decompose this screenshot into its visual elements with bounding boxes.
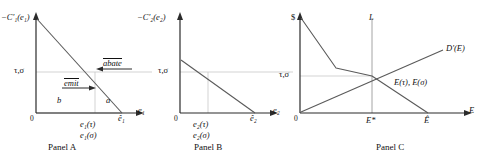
panel-c-y-axis-label: $ bbox=[291, 13, 295, 22]
panel-a: −C'₁(e₁) τ,σ 0 b a emit abate e₁(τ) e₁(σ… bbox=[0, 0, 155, 156]
panel-c-aggregate-label: E(τ), E(σ) bbox=[394, 78, 427, 87]
panel-c-caption: Panel C bbox=[376, 142, 404, 152]
panel-c-plot bbox=[288, 0, 498, 156]
panel-b-tick-label-sigma: e₂(σ) bbox=[193, 131, 210, 140]
panel-a-tick-label-tau: e₁(τ) bbox=[80, 120, 95, 129]
panel-c-x-max-label: Ê bbox=[424, 116, 429, 125]
panel-b-tick-label-tau: e₂(τ) bbox=[193, 120, 208, 129]
panel-c-demand-label: D'(E) bbox=[446, 44, 465, 53]
aggregate-mac-curve-c bbox=[301, 18, 428, 113]
panel-a-x-max-label: ê₁ bbox=[118, 114, 125, 123]
panel-a-caption: Panel A bbox=[48, 142, 76, 152]
panel-b-x-axis-label: e₂ bbox=[273, 106, 280, 115]
panel-a-tick-label-sigma: e₁(σ) bbox=[80, 131, 97, 140]
panel-b-caption: Panel B bbox=[194, 142, 222, 152]
figure-root: −C'₁(e₁) τ,σ 0 b a emit abate e₁(τ) e₁(σ… bbox=[0, 0, 498, 156]
panel-b-x-max-label: ê₂ bbox=[250, 114, 257, 123]
panel-c: $ τ,σ L D'(E) E(τ), E(σ) 0 E* Ê E Panel … bbox=[288, 0, 498, 156]
panel-c-permit-line-label: L bbox=[369, 13, 374, 22]
panel-a-y-axis-label: −C'₁(e₁) bbox=[1, 13, 30, 22]
panel-c-equilibrium-label: E* bbox=[366, 116, 375, 125]
y-axis-arrow-a bbox=[33, 12, 39, 20]
panel-a-x-axis-label: e₁ bbox=[138, 106, 145, 115]
abate-arrow-head-a bbox=[96, 67, 103, 72]
panel-c-x-axis-label: E bbox=[469, 106, 474, 115]
panel-b-plot bbox=[150, 0, 295, 156]
panel-c-price-label: τ,σ bbox=[279, 70, 289, 79]
panel-b: −C'₂(e₂) τ,σ 0 e₂(τ) e₂(σ) ê₂ e₂ Panel B bbox=[150, 0, 295, 156]
panel-b-origin-label: 0 bbox=[174, 115, 178, 123]
panel-c-origin-label: 0 bbox=[294, 115, 298, 123]
panel-a-area-label-a: a bbox=[106, 96, 110, 105]
panel-a-emit-label: emit bbox=[64, 78, 79, 88]
panel-b-y-axis-label: −C'₂(e₂) bbox=[137, 13, 166, 22]
panel-a-area-label-b: b bbox=[57, 96, 61, 105]
y-axis-arrow-b bbox=[177, 12, 183, 20]
panel-b-price-label: τ,σ bbox=[158, 66, 168, 75]
panel-a-abate-label: abate bbox=[103, 58, 122, 68]
panel-a-price-label: τ,σ bbox=[14, 66, 24, 75]
panel-a-origin-label: 0 bbox=[30, 115, 34, 123]
mac-curve-b bbox=[181, 60, 255, 113]
